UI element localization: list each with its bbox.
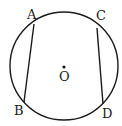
label-b: B bbox=[14, 103, 24, 118]
diagram-canvas: A C O B D bbox=[0, 0, 122, 126]
chord-cd bbox=[97, 28, 103, 104]
label-d: D bbox=[102, 106, 112, 121]
chord-ab bbox=[24, 24, 34, 102]
label-c: C bbox=[96, 8, 106, 23]
circle-diagram: A C O B D bbox=[0, 0, 122, 126]
label-a: A bbox=[26, 7, 37, 22]
label-o: O bbox=[59, 69, 70, 84]
